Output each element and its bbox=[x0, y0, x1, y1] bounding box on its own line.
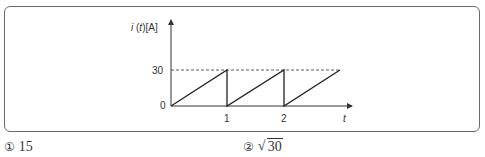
option-1[interactable]: ①15 bbox=[4, 139, 33, 155]
option-2-number: ② bbox=[243, 140, 254, 154]
sqrt-icon: √ bbox=[258, 138, 266, 154]
option-1-number: ① bbox=[4, 140, 15, 154]
sqrt-expression: √30 bbox=[258, 139, 283, 155]
sawtooth-chart: i (t)[A] 30 0 1 2 t bbox=[0, 0, 485, 157]
y-tick-30: 30 bbox=[152, 65, 164, 76]
x-tick-1: 1 bbox=[224, 113, 230, 124]
option-2-value: 30 bbox=[267, 138, 283, 154]
option-2[interactable]: ②√30 bbox=[243, 139, 283, 155]
x-axis-label: t bbox=[343, 113, 347, 124]
sawtooth-series bbox=[171, 70, 340, 106]
option-1-value: 15 bbox=[19, 139, 33, 154]
y-tick-0: 0 bbox=[160, 100, 166, 111]
x-tick-2: 2 bbox=[281, 113, 287, 124]
y-axis-label: i (t)[A] bbox=[131, 22, 158, 33]
